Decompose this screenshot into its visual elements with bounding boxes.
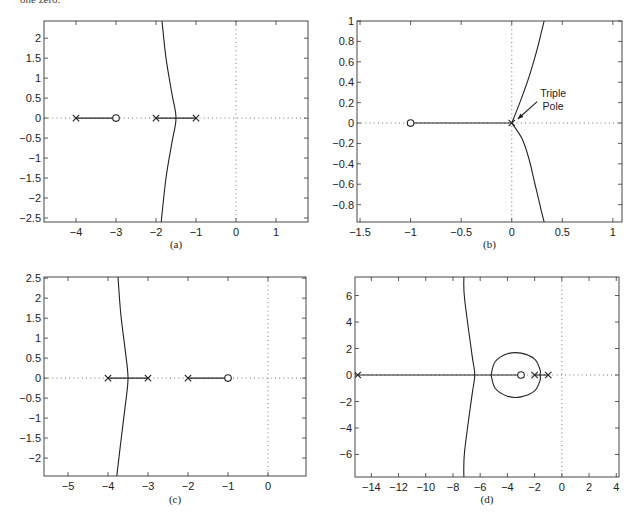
x-tick-label: −10 [416, 481, 435, 493]
x-tick-label: −1 [222, 480, 235, 492]
x-tick-label: −12 [389, 481, 408, 493]
y-tick-label: 0 [35, 112, 41, 124]
x-tick-label: −4 [70, 226, 83, 238]
x-tick-label: −1 [404, 226, 417, 238]
y-tick-label: 0 [346, 369, 352, 381]
x-tick-label: 1 [610, 226, 616, 238]
y-tick-label: −4 [339, 422, 352, 434]
plot-area [357, 21, 622, 222]
subplot-b: −1.5−1−0.500.5110.80.60.40.20−0.2−0.4−0.… [332, 15, 622, 251]
subplot-caption: (c) [169, 493, 182, 506]
x-tick-label: −4 [501, 481, 514, 493]
y-tick-label: −2 [339, 396, 352, 408]
y-tick-label: −0.2 [332, 137, 354, 149]
y-tick-label: 2 [346, 343, 352, 355]
x-tick-label: −8 [447, 481, 460, 493]
figure: −4−3−2−10121.510.50−0.5−1−1.5−2−2.5(a) −… [0, 0, 637, 526]
subplot-caption: (b) [483, 238, 496, 251]
x-tick-label: −6 [474, 481, 487, 493]
subplot-d: −14−12−10−8−6−4−20246420−2−4−6(d) [339, 277, 619, 506]
subplot-caption: (a) [170, 238, 183, 251]
y-tick-label: −1 [28, 152, 41, 164]
locus-branch [512, 21, 544, 123]
y-tick-label: 0.5 [26, 92, 41, 104]
subplot-c: −5−4−3−2−102.521.510.50−0.5−1−1.5−2(c) [19, 272, 306, 506]
plot-area [355, 277, 619, 477]
y-tick-label: 1 [348, 15, 354, 27]
y-tick-label: −2 [28, 452, 41, 464]
y-tick-label: 6 [346, 290, 352, 302]
plot-area [44, 21, 308, 222]
y-tick-label: 1 [35, 72, 41, 84]
axes-frame [355, 277, 619, 477]
annotation-label-line2: Pole [543, 100, 564, 112]
y-tick-label: −0.8 [332, 199, 354, 211]
y-tick-label: −1.5 [19, 432, 41, 444]
subplot-caption: (d) [481, 493, 494, 506]
locus-branch [464, 277, 475, 477]
locus-branch [117, 277, 128, 476]
x-tick-label: 2 [586, 481, 592, 493]
x-tick-label: 0 [233, 226, 239, 238]
y-tick-label: −6 [339, 448, 352, 460]
x-tick-label: −3 [110, 226, 123, 238]
x-tick-label: −14 [362, 481, 381, 493]
y-tick-label: −1.5 [19, 172, 41, 184]
y-tick-label: 0.6 [339, 56, 354, 68]
x-tick-label: −2 [182, 480, 195, 492]
y-tick-label: −1 [28, 412, 41, 424]
x-tick-label: −1.5 [349, 226, 371, 238]
y-tick-label: 0.2 [339, 97, 354, 109]
x-tick-label: 1 [273, 226, 279, 238]
y-tick-label: −0.5 [19, 132, 41, 144]
zero-marker-icon [518, 372, 525, 379]
y-tick-label: 0.8 [339, 35, 354, 47]
x-tick-label: 0 [265, 480, 271, 492]
axes-frame [44, 277, 306, 476]
y-tick-label: 1.5 [26, 52, 41, 64]
x-tick-label: −5 [62, 480, 75, 492]
x-tick-label: 0 [509, 226, 515, 238]
x-tick-label: −3 [142, 480, 155, 492]
annotation-label-line1: Triple [540, 87, 566, 99]
x-tick-label: −0.5 [450, 226, 472, 238]
locus-branch [161, 21, 176, 222]
y-tick-label: −2.5 [19, 212, 41, 224]
plot-area [44, 277, 306, 476]
y-tick-label: 2 [35, 32, 41, 44]
x-tick-label: −2 [528, 481, 541, 493]
subplot-a: −4−3−2−10121.510.50−0.5−1−1.5−2−2.5(a) [19, 21, 308, 251]
y-tick-label: −0.5 [19, 392, 41, 404]
y-tick-label: −0.4 [332, 158, 354, 170]
y-tick-label: 1 [35, 332, 41, 344]
y-tick-label: 0.5 [26, 352, 41, 364]
y-tick-label: 1.5 [26, 312, 41, 324]
y-tick-label: 2.5 [26, 272, 41, 284]
zero-marker-icon [113, 115, 120, 122]
y-tick-label: 0.4 [339, 76, 354, 88]
zero-marker-icon [225, 375, 232, 382]
x-tick-label: 0 [559, 481, 565, 493]
x-tick-label: 0.5 [555, 226, 570, 238]
y-tick-label: 0 [348, 117, 354, 129]
zero-marker-icon [407, 120, 414, 127]
x-tick-label: −2 [150, 226, 163, 238]
x-tick-label: −1 [190, 226, 203, 238]
x-tick-label: 4 [613, 481, 619, 493]
y-tick-label: 2 [35, 292, 41, 304]
y-tick-label: −2 [28, 192, 41, 204]
axes-frame [357, 21, 622, 222]
y-tick-label: 4 [346, 316, 352, 328]
y-tick-label: −0.6 [332, 178, 354, 190]
locus-branch [512, 123, 544, 222]
y-tick-label: 0 [35, 372, 41, 384]
x-tick-label: −4 [102, 480, 115, 492]
